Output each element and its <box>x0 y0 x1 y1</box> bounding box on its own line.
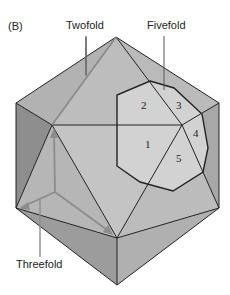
icosahedron-diagram <box>0 0 230 295</box>
face-number-3: 3 <box>176 99 182 111</box>
face-number-5: 5 <box>176 152 182 164</box>
face-number-4: 4 <box>193 127 199 139</box>
panel-label: (B) <box>8 20 23 32</box>
twofold-label: Twofold <box>66 19 104 31</box>
face-number-1: 1 <box>145 138 151 150</box>
fivefold-label: Fivefold <box>147 19 186 31</box>
threefold-label: Threefold <box>16 258 62 270</box>
face-number-2: 2 <box>141 99 147 111</box>
